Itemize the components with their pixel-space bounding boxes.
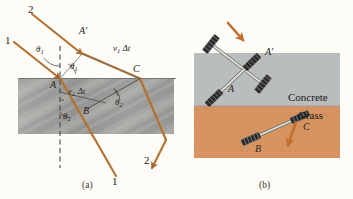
- v2-delta-t: Δt: [75, 86, 85, 96]
- theta1-wavefront-subscript: 1: [74, 65, 77, 72]
- ray-label-incident-upper: 2: [28, 4, 34, 15]
- incoming-direction-arrow: [228, 23, 243, 40]
- wavefront-a-prime-to-c: [82, 54, 140, 79]
- theta1-normal-subscript: 1: [40, 48, 43, 55]
- panel-b-point-label-b: B: [255, 144, 261, 154]
- ray-label-exit-bottom: 1: [112, 176, 118, 187]
- angle-label-theta2-normal: θ2: [63, 112, 71, 122]
- angle-label-theta2-wavefront: θ2: [115, 98, 123, 108]
- distance-label-v1-dt: v1 Δt: [113, 44, 130, 54]
- material-label-concrete: Concrete: [288, 92, 328, 103]
- physics-refraction-figure: 2 1 2 1 A A′ B C θ1 θ1 θ2 θ2 v1 Δt v2 Δt…: [0, 0, 353, 199]
- panel-a-caption: (a): [82, 181, 93, 191]
- theta1-normal-arc: [44, 58, 60, 66]
- panel-b-point-label-a: A: [228, 84, 234, 94]
- panel-a-group: [14, 14, 176, 176]
- angle-label-theta1-normal: θ1: [36, 45, 44, 55]
- distance-label-v2-dt: v2 Δt: [68, 87, 85, 97]
- theta2-normal-subscript: 2: [67, 115, 70, 122]
- point-label-c: C: [133, 64, 140, 74]
- angle-label-theta1-wavefront: θ1: [70, 62, 78, 72]
- panel-b-point-label-a-prime: A′: [265, 47, 273, 57]
- point-label-a-prime: A′: [79, 26, 87, 36]
- theta2-wavefront-subscript: 2: [119, 101, 122, 108]
- point-label-a: A: [50, 80, 56, 90]
- v1-delta-t: Δt: [120, 43, 130, 53]
- ray-label-incident-lower: 1: [5, 35, 11, 46]
- material-label-grass: Grass: [298, 110, 323, 121]
- ray-label-exit-lower-right: 2: [144, 155, 150, 166]
- ray-2-exit: [152, 140, 166, 168]
- point-label-b: B: [83, 106, 89, 116]
- panel-b-point-label-c: C: [303, 122, 310, 132]
- panel-b-caption: (b): [259, 181, 270, 191]
